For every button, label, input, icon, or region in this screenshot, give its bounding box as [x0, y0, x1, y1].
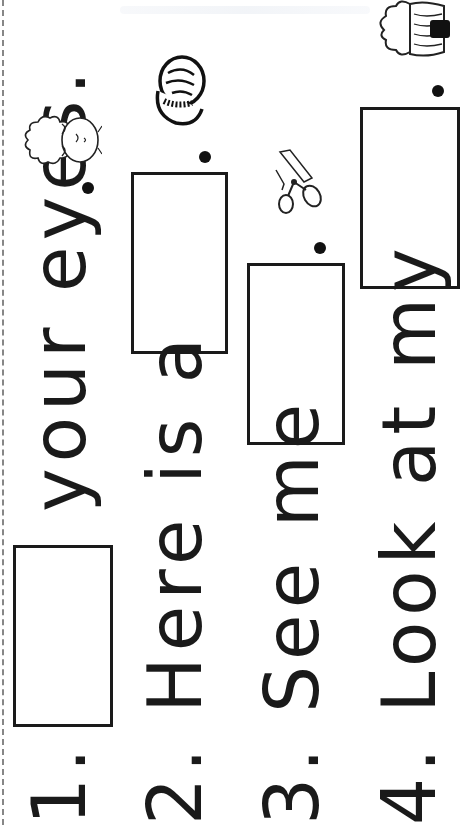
- cut-line: [2, 0, 4, 825]
- sentence-3-answer-box[interactable]: [247, 263, 345, 445]
- faded-header-bleed: [120, 6, 370, 14]
- sentence-4-answer-box[interactable]: [360, 107, 460, 289]
- sentence-2-answer-box[interactable]: [131, 172, 228, 354]
- nut-icon: [150, 55, 208, 127]
- hair-icon: [376, 0, 450, 60]
- sentence-1-period: [82, 182, 94, 194]
- sentence-2-period: [199, 151, 211, 163]
- sentence-1-answer-box[interactable]: [13, 545, 113, 727]
- face-closed-eyes-icon: [18, 112, 102, 168]
- sentence-4-period: [432, 85, 444, 97]
- sentence-4-text-before: 4. Look at my: [372, 242, 446, 825]
- scissors-cutting-icon: [272, 148, 328, 218]
- sentence-3-text-before: 3. See me: [255, 398, 329, 825]
- sentence-1-number: 1.: [22, 742, 96, 825]
- sentence-2-text-before: 2. Here is a: [138, 332, 212, 825]
- sentence-3-period: [314, 242, 326, 254]
